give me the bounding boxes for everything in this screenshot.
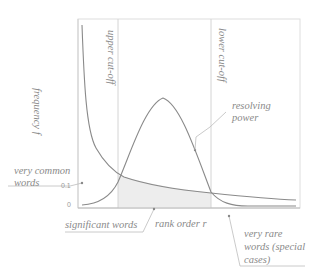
very-common-label-line1: very common (14, 165, 70, 177)
very-rare-marker (228, 215, 230, 217)
resolving-power-label-line1: resolving (232, 100, 271, 112)
very-common-marker (81, 182, 83, 184)
y-tick-0-1: 0.1 (61, 182, 71, 190)
resolving-power-label-line2: power (232, 112, 258, 124)
x-axis-label: rank order r (155, 218, 207, 230)
significant-words-label: significant words (65, 219, 137, 231)
very-common-label-line2: words (14, 177, 39, 189)
zipf-diagram: frequency f rank order r 0.1 0 upper cut… (0, 0, 322, 277)
lower-cutoff-label: lower cut-off (217, 28, 228, 82)
significant-words-marker (153, 208, 155, 210)
resolving-power-leader-tail (195, 137, 196, 150)
upper-cutoff-label: upper cut-off (106, 30, 117, 85)
very-rare-label-line1: very rare (244, 228, 282, 240)
y-axis-label: frequency f (32, 88, 43, 135)
very-rare-label-line2: words (special (244, 241, 305, 253)
very-rare-label-line3: cases) (244, 254, 270, 266)
resolving-power-curve (82, 98, 296, 206)
y-tick-0: 0 (67, 201, 71, 209)
